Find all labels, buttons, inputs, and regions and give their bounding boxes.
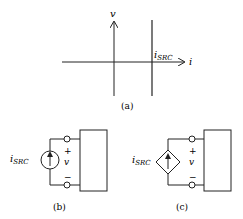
voltage-label: v bbox=[64, 157, 69, 167]
top-wire bbox=[50, 139, 64, 151]
plus-sign: + bbox=[189, 146, 197, 156]
top-wire bbox=[168, 139, 189, 150]
x-axis-label: i bbox=[189, 56, 192, 67]
panel-c-circuit: + v − iSRC (c) bbox=[132, 130, 231, 212]
terminal-bottom bbox=[64, 182, 70, 188]
load-box bbox=[204, 130, 231, 191]
panel-b-circuit: + v − iSRC (b) bbox=[10, 130, 107, 212]
voltage-label: v bbox=[189, 157, 194, 167]
bottom-wire bbox=[50, 169, 64, 185]
caption-b: (b) bbox=[53, 202, 66, 212]
minus-sign: − bbox=[189, 172, 197, 182]
source-label: iSRC bbox=[10, 153, 29, 166]
load-box bbox=[80, 130, 107, 191]
bottom-wire bbox=[168, 174, 189, 185]
isrc-line-label: iSRC bbox=[154, 49, 173, 62]
plus-sign: + bbox=[64, 146, 72, 156]
y-axis-label: v bbox=[110, 8, 116, 19]
terminal-top bbox=[189, 136, 195, 142]
caption-c: (c) bbox=[176, 202, 188, 212]
terminal-top bbox=[64, 136, 70, 142]
panel-a-graph: v i iSRC (a) bbox=[62, 8, 192, 111]
caption-a: (a) bbox=[121, 101, 133, 111]
figure-canvas: v i iSRC (a) + v − iSRC (b) + bbox=[0, 0, 243, 219]
minus-sign: − bbox=[64, 172, 72, 182]
source-label: iSRC bbox=[132, 154, 151, 167]
terminal-bottom bbox=[189, 182, 195, 188]
